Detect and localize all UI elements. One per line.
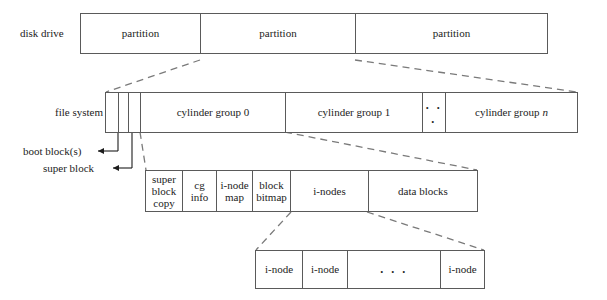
inodes-cell[interactable]: i-nodes	[291, 171, 369, 211]
file-system-box: cylinder group 0 cylinder group 1 . . . …	[105, 92, 578, 133]
block-bitmap-line-2: bitmap	[256, 191, 287, 203]
boot-block-cell[interactable]	[106, 93, 119, 132]
partition-label-2: partition	[259, 27, 296, 39]
super-block-copy-line-1: super	[152, 173, 176, 185]
inode-label-2: i-node	[311, 263, 339, 275]
callout-super-block: super block	[43, 162, 94, 174]
partition-cell-3[interactable]: partition	[356, 14, 547, 53]
cylinder-group-cell-0[interactable]: cylinder group 0	[141, 93, 286, 132]
cylinder-group-detail-box: super block copy cg info i-node map bloc…	[145, 170, 478, 212]
inodes-label: i-nodes	[313, 185, 345, 197]
super-block-copy-line-2: block	[152, 185, 176, 197]
row-label-file-system: file system	[55, 106, 103, 118]
cylinder-group-ellipsis-label: . . .	[425, 99, 443, 126]
super-block-cell[interactable]	[119, 93, 129, 132]
super-block-copy-line-3: copy	[153, 197, 174, 209]
block-bitmap-cell[interactable]: block bitmap	[253, 171, 291, 211]
data-blocks-label: data blocks	[398, 185, 448, 197]
cylinder-group-cell-n[interactable]: cylinder group n	[446, 93, 577, 132]
inode-map-line-1: i-node	[220, 179, 248, 191]
arrowhead-super-block	[113, 165, 119, 171]
dashed-partition-to-filesystem-right	[355, 60, 577, 92]
cg-info-line-1: cg	[194, 179, 204, 191]
cylinder-group-ellipsis-cell: . . .	[423, 93, 446, 132]
dashed-inodes-to-list-left	[256, 212, 291, 250]
inode-ellipsis-label: . . .	[380, 263, 408, 276]
partition-label-3: partition	[433, 27, 470, 39]
cylinder-group-index-n: n	[542, 106, 548, 118]
inode-map-cell[interactable]: i-node map	[217, 171, 253, 211]
inode-cell-2[interactable]: i-node	[303, 251, 348, 288]
cg-info-line-2: info	[191, 191, 209, 203]
inode-label-last: i-node	[448, 263, 476, 275]
dashed-inodes-to-list-right	[367, 212, 484, 250]
inode-cell-last[interactable]: i-node	[441, 251, 484, 288]
inode-map-line-2: map	[225, 191, 244, 203]
inode-cell-1[interactable]: i-node	[256, 251, 303, 288]
cylinder-group-cell-1[interactable]: cylinder group 1	[286, 93, 423, 132]
partition-cell-1[interactable]: partition	[81, 14, 201, 53]
inode-list-box: i-node i-node . . . i-node	[255, 250, 485, 289]
dashed-partition-to-filesystem-left	[106, 60, 200, 92]
row-label-disk-drive: disk drive	[20, 27, 64, 39]
inode-label-1: i-node	[265, 263, 293, 275]
disk-drive-box: partition partition partition	[80, 13, 548, 54]
arrowhead-boot-block	[98, 148, 104, 154]
super-block-copy-cell[interactable]: super block copy	[146, 171, 183, 211]
cg-info-cell[interactable]: cg info	[183, 171, 217, 211]
dashed-cylindergroup-to-detail-right	[285, 132, 477, 170]
filesystem-layout-diagram: disk drive partition partition partition…	[0, 0, 607, 300]
partition-label-1: partition	[122, 27, 159, 39]
callout-boot-blocks: boot block(s)	[23, 145, 81, 157]
dashed-cylindergroup-to-detail-left	[140, 132, 146, 170]
cylinder-group-label-n: cylinder group	[475, 106, 539, 118]
cylinder-group-label-1: cylinder group 1	[318, 106, 391, 118]
cylinder-group-label-0: cylinder group 0	[177, 106, 250, 118]
data-blocks-cell[interactable]: data blocks	[369, 171, 477, 211]
filesystem-spare-cell[interactable]	[129, 93, 141, 132]
partition-cell-2[interactable]: partition	[201, 14, 356, 53]
inode-ellipsis-cell: . . .	[348, 251, 441, 288]
block-bitmap-line-1: block	[259, 179, 283, 191]
